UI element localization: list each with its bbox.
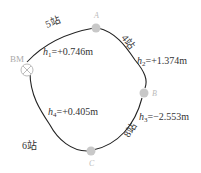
segment-1-stations: 5站 bbox=[43, 13, 61, 30]
point-c-label: C bbox=[89, 159, 95, 168]
benchmark-label: BM bbox=[10, 54, 24, 64]
segment-4-stations: 6站 bbox=[22, 139, 37, 151]
point-b-label: B bbox=[152, 89, 157, 98]
segment-3-height-diff: h3=−2.553m bbox=[139, 111, 189, 124]
point-a-marker bbox=[92, 24, 101, 33]
segment-3-stations: 8站 bbox=[120, 120, 138, 139]
segment-2-stations: 4站 bbox=[119, 32, 138, 51]
leveling-route-diagram: BM A B C 5站 4站 8站 6站 h1=+0.746m h2=+1.37… bbox=[0, 0, 201, 173]
segment-4-height-diff: h4=+0.405m bbox=[48, 106, 98, 119]
segment-1-height-diff: h1=+0.746m bbox=[43, 46, 93, 59]
point-c-marker bbox=[87, 147, 96, 156]
point-b-marker bbox=[140, 89, 149, 98]
segment-2-height-diff: h2=+1.374m bbox=[137, 55, 187, 68]
point-a-label: A bbox=[93, 11, 99, 20]
benchmark-icon bbox=[21, 64, 33, 76]
